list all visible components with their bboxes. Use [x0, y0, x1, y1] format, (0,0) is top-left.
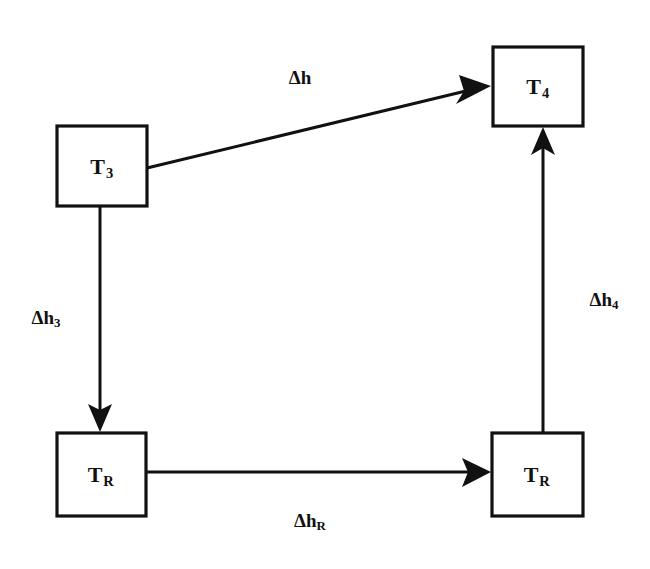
edge-label-delta-h4-base: Δh [590, 289, 612, 310]
diagram-canvas: T3 T4 TR TR Δh Δh3 ΔhR Δh4 [0, 0, 650, 569]
edge-delta-h-arrowhead [456, 75, 491, 104]
node-label-T4: T4 [526, 74, 549, 100]
edge-label-delta-hR-base: Δh [294, 510, 316, 531]
node-label-T3-subscript: 3 [106, 165, 114, 181]
edge-delta-h-line [147, 90, 470, 168]
edge-label-delta-h3-subscript: 3 [54, 315, 60, 330]
edge-delta-h [147, 75, 491, 168]
node-label-T4-subscript: 4 [542, 85, 550, 101]
edge-label-delta-h4: Δh4 [590, 289, 619, 311]
edge-label-delta-h4-subscript: 4 [612, 297, 618, 312]
edge-label-delta-h: Δh [289, 67, 311, 89]
node-label-T3: T3 [90, 154, 113, 180]
edge-delta-hR [146, 458, 491, 487]
node-label-T4-base: T [526, 74, 541, 99]
edge-label-delta-hR-subscript: R [317, 518, 326, 533]
node-label-TR-left-base: T [88, 462, 103, 487]
node-label-TR-right-subscript: R [539, 473, 550, 489]
edge-label-delta-h3: Δh3 [32, 307, 61, 329]
edge-delta-h4 [531, 127, 555, 432]
edge-label-delta-h-base: Δh [289, 67, 311, 88]
node-label-T3-base: T [90, 154, 105, 179]
edge-label-delta-hR: ΔhR [294, 510, 326, 532]
node-label-TR-right: TR [524, 462, 551, 488]
node-label-TR-left: TR [88, 462, 115, 488]
node-label-TR-right-base: T [524, 462, 539, 487]
edge-delta-h3 [88, 206, 112, 432]
edge-label-delta-h3-base: Δh [32, 307, 54, 328]
node-label-TR-left-subscript: R [103, 473, 114, 489]
